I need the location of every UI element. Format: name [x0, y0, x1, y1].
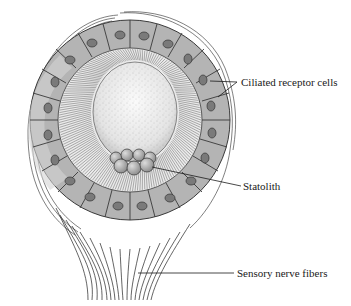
- statocyst-diagram: [0, 0, 351, 306]
- statocyst-lumen: [93, 62, 177, 162]
- label-ciliated-receptor-cells: Ciliated receptor cells: [241, 77, 338, 88]
- label-statolith: Statolith: [243, 181, 280, 192]
- sensory-nerve-fibers-drawing: [56, 208, 190, 300]
- label-sensory-nerve-fibers: Sensory nerve fibers: [237, 268, 327, 279]
